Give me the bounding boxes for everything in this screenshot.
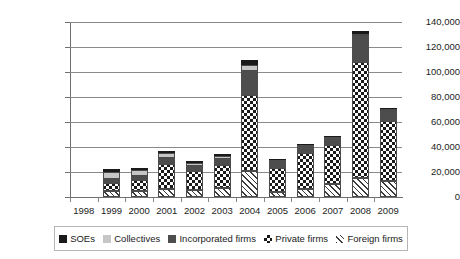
bar-segment-soes — [352, 31, 369, 34]
diagonal-hatch-square-icon — [336, 235, 344, 243]
bar-segment-private-firms — [269, 168, 286, 192]
x-axis-tick — [291, 198, 292, 202]
legend-item[interactable]: Foreign firms — [336, 234, 402, 244]
bar-segment-private-firms — [103, 183, 120, 191]
y-axis-tick-label: 0 — [398, 192, 460, 202]
x-axis-tick-label: 2005 — [264, 205, 292, 216]
bar-segment-soes — [380, 108, 397, 109]
y-axis-tick-label: 80,000 — [398, 92, 460, 102]
x-axis-tick — [374, 198, 375, 202]
bar-segment-soes — [131, 168, 148, 170]
bar-segment-collectives — [103, 172, 120, 179]
bar-segment-private-firms — [186, 171, 203, 190]
x-axis-tick-label: 2001 — [153, 205, 181, 216]
x-axis-tick-label: 2003 — [208, 205, 236, 216]
bar-segment-foreign-firms — [352, 178, 369, 197]
bar-stack — [352, 31, 369, 197]
x-axis-tick-label: 2000 — [125, 205, 153, 216]
plot-area — [70, 22, 402, 197]
y-axis-tick-label: 40,000 — [398, 142, 460, 152]
x-axis-tick-label: 2007 — [319, 205, 347, 216]
bar-segment-incorporated-firms — [103, 179, 120, 183]
bar-stack — [324, 136, 341, 198]
bar-segment-soes — [103, 169, 120, 172]
bar-segment-foreign-firms — [297, 189, 314, 197]
bar-segment-collectives — [131, 170, 148, 176]
gridline — [70, 22, 402, 23]
bar-segment-collectives — [214, 156, 231, 159]
bar-stack — [269, 159, 286, 197]
bar-segment-foreign-firms — [241, 171, 258, 197]
bar-stack — [158, 151, 175, 197]
bar-segment-incorporated-firms — [186, 166, 203, 171]
bar-segment-private-firms — [158, 164, 175, 189]
bar-segment-collectives — [352, 34, 369, 36]
x-axis-tick — [347, 198, 348, 202]
checkerboard-square-icon — [264, 235, 272, 243]
bar-stack — [131, 168, 148, 197]
y-axis-tick-label: 20,000 — [398, 167, 460, 177]
bar-segment-private-firms — [324, 145, 341, 184]
bar-stack — [214, 154, 231, 197]
bar-segment-foreign-firms — [103, 191, 120, 197]
bar-segment-private-firms — [297, 153, 314, 189]
bar-segment-private-firms — [241, 95, 258, 171]
bar-stack — [380, 108, 397, 197]
x-axis-tick — [98, 198, 99, 202]
bar-segment-collectives — [186, 163, 203, 166]
x-axis-tick — [153, 198, 154, 202]
bar-segment-soes — [269, 159, 286, 160]
legend-item[interactable]: Incorporated firms — [168, 234, 256, 244]
legend-item-label: SOEs — [70, 234, 95, 244]
bar-stack — [241, 60, 258, 198]
light-gray-square-icon — [103, 235, 111, 243]
x-axis-tick — [125, 198, 126, 202]
bar-stack — [103, 169, 120, 197]
bar-segment-private-firms — [131, 180, 148, 191]
bar-segment-collectives — [158, 153, 175, 159]
bar-segment-soes — [214, 154, 231, 156]
y-axis-tick-label: 100,000 — [398, 67, 460, 77]
legend-item-label: Incorporated firms — [179, 234, 256, 244]
dark-gray-square-icon — [168, 235, 176, 243]
bar-segment-soes — [241, 60, 258, 66]
black-square-icon — [59, 235, 67, 243]
bar-segment-foreign-firms — [131, 191, 148, 197]
bar-segment-foreign-firms — [214, 188, 231, 197]
bar-segment-incorporated-firms — [131, 176, 148, 180]
bar-segment-foreign-firms — [324, 184, 341, 197]
legend-item[interactable]: SOEs — [59, 234, 95, 244]
x-axis-tick-label: 1998 — [70, 205, 98, 216]
y-axis-tick-label: 120,000 — [398, 42, 460, 52]
chart-legend: SOEsCollectivesIncorporated firmsPrivate… — [54, 226, 408, 251]
x-axis-tick — [236, 198, 237, 202]
x-axis-tick — [208, 198, 209, 202]
bar-segment-foreign-firms — [269, 192, 286, 197]
bar-segment-private-firms — [380, 121, 397, 181]
bar-segment-incorporated-firms — [380, 111, 397, 122]
x-axis-tick — [319, 198, 320, 202]
bar-segment-incorporated-firms — [324, 136, 341, 145]
legend-item[interactable]: Collectives — [103, 234, 160, 244]
y-axis-tick-label: 140,000 — [398, 17, 460, 27]
x-axis-tick — [264, 198, 265, 202]
x-axis-tick-label: 2002 — [181, 205, 209, 216]
legend-item[interactable]: Private firms — [264, 234, 328, 244]
bar-segment-incorporated-firms — [352, 36, 369, 62]
x-axis-tick — [181, 198, 182, 202]
chart-figure: 020,00040,00060,00080,000100,000120,0001… — [0, 0, 460, 259]
legend-item-label: Foreign firms — [347, 234, 402, 244]
bar-segment-foreign-firms — [380, 181, 397, 197]
legend-item-label: Private firms — [275, 234, 328, 244]
bar-segment-incorporated-firms — [158, 158, 175, 164]
bar-segment-incorporated-firms — [214, 159, 231, 165]
x-axis-tick-label: 2009 — [374, 205, 402, 216]
x-axis-tick — [70, 198, 71, 202]
bar-segment-collectives — [380, 109, 397, 111]
bar-segment-soes — [297, 144, 314, 145]
x-axis-tick-label: 1999 — [98, 205, 126, 216]
bar-segment-foreign-firms — [158, 189, 175, 197]
bar-stack — [186, 161, 203, 197]
x-axis-tick-label: 2004 — [236, 205, 264, 216]
bar-segment-soes — [186, 161, 203, 163]
